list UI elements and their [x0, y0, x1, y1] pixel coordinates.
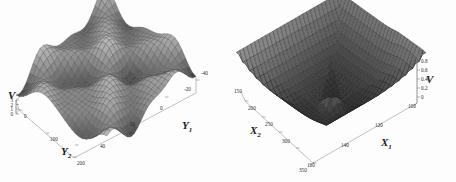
left-xtick-1: -20: [184, 86, 191, 92]
left-ytick-0: 0: [24, 113, 27, 119]
right-x-axis-label: X1: [380, 136, 392, 151]
left-z-axis-label: V: [8, 89, 17, 101]
right-xtick-2: 140: [341, 142, 349, 148]
left-xtick-0: -40: [201, 70, 208, 76]
right-xtick-1: 120: [375, 122, 383, 128]
right-ztick-0: 0: [421, 94, 424, 100]
right-ytick-4: 350: [299, 167, 307, 173]
right-xtick-0: 100: [408, 103, 416, 109]
right-ytick-3: 300: [282, 138, 290, 144]
right-xtick-3: 160: [307, 162, 315, 168]
right-ztick-5: 1: [421, 49, 424, 55]
left-x-axis-label: Y1: [182, 119, 192, 134]
right-ytick-2: 250: [265, 121, 273, 127]
figure-container: 0 1 2 3 0 100 200 -40: [0, 0, 456, 182]
left-xtick-4: 40: [100, 143, 106, 149]
right-ztick-4: 0.8: [421, 58, 428, 64]
left-xtick-2: 0: [160, 105, 163, 111]
left-surface-plot: 0 1 2 3 0 100 200 -40: [0, 0, 228, 182]
right-ytick-1: 200: [248, 105, 256, 111]
left-ytick-2: 200: [77, 160, 85, 166]
right-surface-plot: 0 0.2 0.4 0.6 0.8 1 150 200 250 300 350: [228, 0, 456, 182]
right-z-axis-label: V: [426, 73, 435, 85]
right-surface-mesh: [236, 0, 426, 125]
left-xtick-3: 20: [130, 121, 136, 127]
left-ytick-1: 100: [50, 136, 58, 142]
left-y-axis-label: Y2: [61, 145, 72, 160]
right-y-axis-label: X2: [249, 124, 261, 139]
right-ytick-0: 150: [234, 88, 242, 94]
right-ztick-1: 0.2: [421, 85, 428, 91]
left-surface-mesh: [16, 0, 196, 139]
